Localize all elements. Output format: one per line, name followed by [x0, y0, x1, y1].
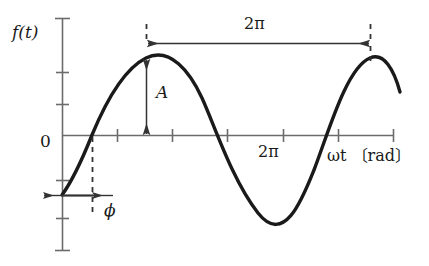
waveform-figure: f(t) 0 A ϕ 2π 2π ωt 〔rad〕	[0, 0, 429, 266]
x-tick-label-2pi: 2π	[258, 142, 279, 161]
phase-label: ϕ	[104, 200, 116, 220]
period-label: 2π	[244, 14, 265, 33]
x-axis-label: ωt 〔rad〕	[327, 142, 411, 166]
y-axis-label: f(t)	[12, 22, 38, 42]
origin-label: 0	[40, 131, 51, 151]
dashed-guides	[93, 24, 371, 212]
amplitude-label: A	[156, 82, 168, 102]
sine-curve	[62, 55, 400, 224]
waveform-plot	[0, 0, 429, 266]
